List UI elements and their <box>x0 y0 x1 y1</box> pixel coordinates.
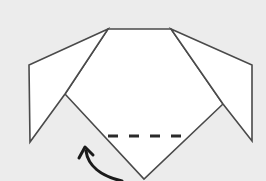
diagram-svg <box>0 0 266 181</box>
origami-diagram <box>0 0 266 181</box>
